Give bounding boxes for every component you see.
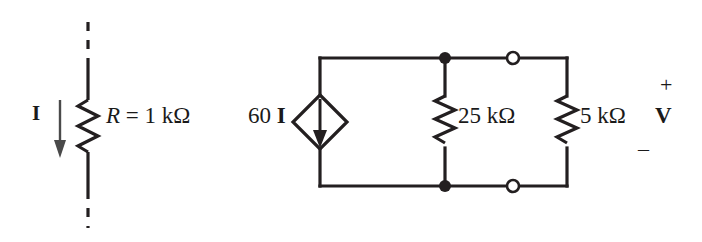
polarity-plus-sign: +	[660, 74, 672, 96]
junction-dot-top	[439, 52, 451, 64]
dependent-source-label: 60 I	[248, 104, 286, 127]
junction-dot-bottom	[439, 180, 451, 192]
resistor-25k-zigzag	[435, 96, 455, 143]
resistor-R-symbol: R	[106, 103, 120, 128]
resistor-5k-label: 5 kΩ	[580, 104, 626, 127]
source-variable: I	[277, 103, 286, 128]
output-voltage-label: V	[655, 104, 672, 127]
source-coefficient: 60	[248, 103, 277, 128]
resistor-R-value: = 1 kΩ	[120, 103, 190, 128]
resistor-R-label: R = 1 kΩ	[106, 104, 190, 127]
current-arrow-I	[54, 100, 66, 158]
current-label-I: I	[32, 103, 40, 124]
resistor-5k-zigzag	[557, 96, 577, 143]
resistor-25k-label: 25 kΩ	[458, 104, 515, 127]
left-branch-group	[78, 22, 98, 228]
dependent-current-source-symbol	[293, 95, 347, 149]
open-terminal-bottom	[507, 180, 519, 192]
polarity-minus-sign: _	[638, 130, 649, 152]
resistor-R-zigzag	[78, 100, 98, 152]
circuit-diagram-figure: I R = 1 kΩ 60 I 25 kΩ 5 kΩ + V _	[0, 0, 702, 242]
open-terminal-top	[507, 52, 519, 64]
current-arrow-head	[54, 140, 66, 158]
